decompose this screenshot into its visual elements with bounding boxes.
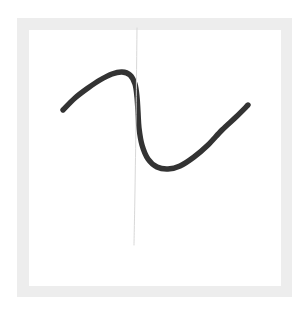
hand-drawn-curve <box>63 72 248 169</box>
vertical-reference-line <box>134 28 137 245</box>
plot-area <box>0 0 307 310</box>
figure-root <box>0 0 307 310</box>
